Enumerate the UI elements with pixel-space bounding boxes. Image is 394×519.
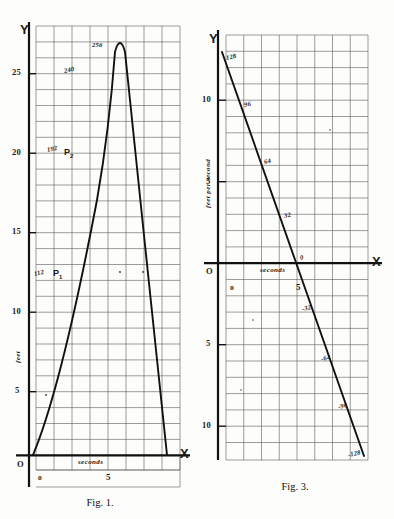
- fig3-x-tick-5: 5: [296, 282, 301, 292]
- curve-point-marker: [119, 271, 121, 273]
- fig3-y-unit-label: feet per second: [204, 159, 212, 208]
- fig3-label-96: 96: [243, 100, 251, 108]
- figure-3: Y X 10 5 O 5 10 feet per second seconds …: [196, 0, 394, 519]
- fig3-x-tick-o: o: [230, 283, 234, 292]
- fig1-x-unit-label: seconds: [78, 458, 103, 466]
- p1-sub: 1: [59, 274, 62, 280]
- fig3-y-tick-10-upper: 10: [202, 94, 211, 104]
- figure-3-plot: [196, 0, 394, 500]
- fig1-x-tick-o: o: [38, 473, 42, 482]
- fig1-y-tick-15: 15: [12, 226, 21, 236]
- grid-lines: [226, 35, 368, 460]
- grid-lines: [36, 26, 180, 470]
- fig1-point-p1: P1: [53, 268, 62, 280]
- grid-dot: [240, 389, 242, 391]
- p2-sub: 2: [70, 153, 73, 159]
- curve-point-marker: [142, 271, 144, 273]
- fig1-y-tick-20: 20: [12, 147, 21, 157]
- figure-1-plot: [0, 0, 200, 500]
- fig1-x-tick-5: 5: [106, 472, 111, 482]
- fig3-y-tick-10-lower: 10: [202, 420, 211, 430]
- fig3-x-axis-letter: X: [372, 254, 380, 269]
- fig1-y-tick-5: 5: [15, 385, 20, 395]
- fig1-origin-label: O: [17, 459, 24, 469]
- fig1-caption: Fig. 1.: [0, 497, 200, 508]
- fig1-point-p2: P2: [64, 147, 73, 159]
- curve-point-marker: [45, 394, 47, 396]
- fig1-x-axis-letter: X: [180, 446, 188, 461]
- fig3-label-32: 32: [283, 211, 291, 219]
- fig1-y-unit-label: feet: [14, 351, 22, 363]
- fig1-curve-label-256: 256: [92, 41, 102, 48]
- velocity-line: [222, 52, 364, 456]
- grid-dot: [252, 319, 254, 321]
- fig3-caption: Fig. 3.: [196, 481, 394, 492]
- fig3-y-tick-5-lower: 5: [206, 338, 211, 348]
- fig3-label-64: 64: [263, 157, 271, 165]
- parabola-curve: [33, 43, 167, 455]
- fig1-y-axis-letter: Y: [20, 22, 28, 37]
- fig3-origin-label: O: [206, 266, 213, 276]
- fig3-y-axis-letter: Y: [209, 31, 217, 46]
- figure-1: Y X 25 20 15 10 5 O feet seconds o 5 256…: [0, 0, 200, 519]
- fig3-x-unit-label: seconds: [260, 266, 285, 274]
- fig1-y-tick-25: 25: [12, 67, 21, 77]
- fig1-y-tick-10: 10: [12, 306, 21, 316]
- grid-dot: [329, 129, 331, 131]
